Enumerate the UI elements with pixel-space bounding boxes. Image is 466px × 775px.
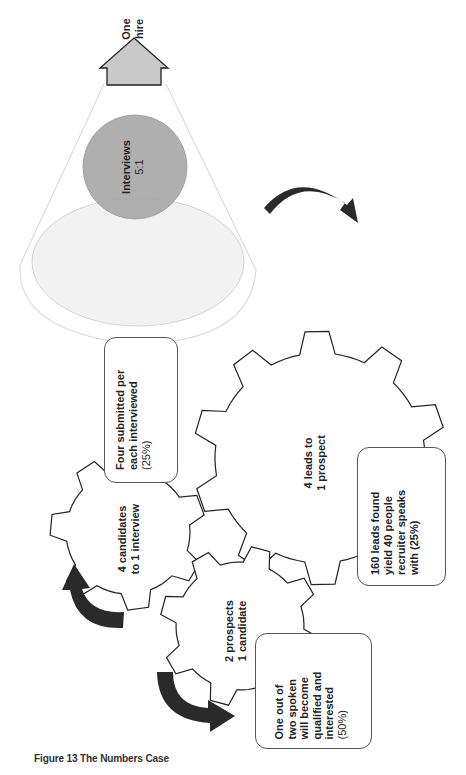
note-line: (25%): [140, 350, 153, 470]
note-line: recruiter speaks: [395, 467, 408, 575]
gear-prospects-label: 2 prospects 1 candidate: [223, 591, 253, 671]
interviews-line1: Interviews: [120, 132, 133, 202]
note-line: Four submitted per: [114, 350, 127, 470]
gear-line2: 1 candidate: [236, 591, 249, 671]
note-spoken-text: One out of two spoken will become qualif…: [273, 645, 355, 740]
note-line: interested: [323, 645, 336, 740]
rotation-arrow-top-right-icon: [264, 187, 358, 223]
note-line: two spoken: [285, 645, 298, 740]
note-leads-text: 160 leads found yield 40 people recruite…: [369, 467, 435, 575]
one-hire-label: One hire: [120, 6, 150, 52]
gear-line2: 1 prospect: [315, 426, 328, 500]
interviews-label: Interviews 5:1: [120, 132, 150, 202]
gear-line2: to 1 interview: [129, 493, 142, 585]
note-line: qualified and: [310, 645, 323, 740]
gear-line1: 4 leads to: [302, 426, 315, 500]
one-hire-line2: hire: [133, 6, 146, 52]
note-line: will become: [298, 645, 311, 740]
gear-line1: 2 prospects: [223, 591, 236, 671]
gear-candidates-label: 4 candidates to 1 interview: [116, 493, 146, 585]
one-hire-line1: One: [120, 6, 133, 52]
note-line: yield 40 people: [382, 467, 395, 575]
gear-leads-label: 4 leads to 1 prospect: [302, 426, 332, 500]
gear-line1: 4 candidates: [116, 493, 129, 585]
note-line: 160 leads found: [369, 467, 382, 575]
note-line: (50%): [335, 645, 348, 740]
note-line: One out of: [273, 645, 286, 740]
note-submitted-text: Four submitted per each interviewed (25%…: [114, 350, 168, 470]
note-line: each interviewed: [127, 350, 140, 470]
interviews-line2: 5:1: [133, 132, 146, 202]
note-line: with (25%): [408, 467, 421, 575]
figure-caption: Figure 13 The Numbers Case: [34, 752, 169, 764]
